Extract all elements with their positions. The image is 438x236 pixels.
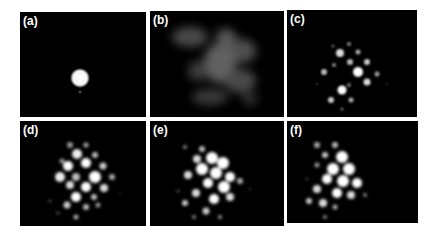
panel-f: (f) — [287, 121, 418, 223]
single-spot-image — [20, 12, 146, 117]
bright-cluster-image-e — [150, 121, 284, 226]
panel-d: (d) — [20, 121, 146, 226]
panel-c: (c) — [287, 10, 417, 117]
panel-a: (a) — [20, 12, 146, 117]
bright-cluster-image-f — [287, 121, 418, 223]
dense-lattice-image — [20, 121, 146, 226]
panel-e: (e) — [150, 121, 284, 226]
speckle-image — [150, 11, 284, 117]
panel-b: (b) — [150, 11, 284, 117]
sparse-lattice-image — [287, 10, 417, 117]
